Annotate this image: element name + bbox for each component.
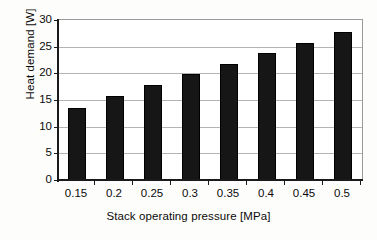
bar[interactable] <box>68 108 85 180</box>
x-axis-tick-marks <box>57 180 361 185</box>
bar-slot <box>58 20 96 180</box>
bars-group <box>58 20 362 180</box>
bar[interactable] <box>182 74 199 180</box>
bar-slot <box>172 20 210 180</box>
x-tick-label: 0.45 <box>285 187 323 199</box>
y-tick-mark <box>54 73 58 74</box>
x-tick-cell <box>247 180 285 185</box>
y-tick-label: 20 <box>26 66 52 78</box>
y-tick-mark <box>54 47 58 48</box>
y-tick-mark <box>54 100 58 101</box>
x-tick-label: 0.4 <box>247 187 285 199</box>
bar[interactable] <box>334 32 351 180</box>
x-tick-cell <box>57 180 95 185</box>
x-tick-cell <box>285 180 323 185</box>
bar[interactable] <box>296 43 313 180</box>
x-tick-label: 0.25 <box>133 187 171 199</box>
x-tick-label: 0.3 <box>171 187 209 199</box>
bar-slot <box>96 20 134 180</box>
bar-slot <box>210 20 248 180</box>
bar[interactable] <box>258 53 275 180</box>
x-tick-label: 0.5 <box>323 187 361 199</box>
y-tick-mark <box>54 127 58 128</box>
x-tick-mark <box>360 180 361 185</box>
y-tick-label: 5 <box>26 146 52 158</box>
y-tick-label: 30 <box>26 13 52 25</box>
y-tick-label: 0 <box>26 173 52 185</box>
x-tick-label: 0.35 <box>209 187 247 199</box>
plot-area <box>57 19 363 181</box>
bar-slot <box>324 20 362 180</box>
x-axis-title: Stack operating pressure [MPa] <box>0 210 377 222</box>
bar-slot <box>286 20 324 180</box>
x-tick-cell <box>133 180 171 185</box>
y-axis-tick-labels: 051015202530 <box>26 12 52 180</box>
x-tick-cell <box>171 180 209 185</box>
x-tick-label: 0.2 <box>95 187 133 199</box>
bar-slot <box>248 20 286 180</box>
y-tick-label: 15 <box>26 93 52 105</box>
x-tick-cell <box>323 180 361 185</box>
bar-chart-figure: Heat demand [W] 051015202530 0.150.20.25… <box>0 0 377 240</box>
y-tick-label: 10 <box>26 120 52 132</box>
x-axis-tick-labels: 0.150.20.250.30.350.40.450.5 <box>57 187 361 199</box>
y-tick-label: 25 <box>26 40 52 52</box>
bar[interactable] <box>106 96 123 180</box>
bar[interactable] <box>220 64 237 180</box>
bar[interactable] <box>144 85 161 180</box>
x-tick-cell <box>209 180 247 185</box>
bar-slot <box>134 20 172 180</box>
x-tick-label: 0.15 <box>57 187 95 199</box>
y-tick-mark <box>54 20 58 21</box>
x-tick-cell <box>95 180 133 185</box>
y-tick-mark <box>54 153 58 154</box>
